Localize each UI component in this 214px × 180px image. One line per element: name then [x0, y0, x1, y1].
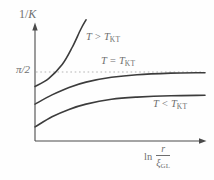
curve-label-t-above-tkt: T > TKT [86, 32, 120, 44]
curve-label-t-above-tkt-main: T > T [86, 31, 110, 42]
pi-half-tick-label: π/2 [6, 64, 30, 75]
y-axis-label: 1/K [19, 8, 36, 20]
curve-label-t-equal-tkt: T = TKT [101, 56, 135, 68]
y-axis-label-prefix: 1/ [19, 7, 28, 21]
curve-label-t-equal-tkt-main: T = T [101, 55, 125, 66]
x-axis-label-denominator: ξGL [156, 156, 170, 170]
x-axis-label: ln r ξGL [144, 143, 170, 170]
plot-canvas [0, 0, 214, 180]
xi-subscript: GL [160, 162, 170, 170]
curve-t-above-tkt [35, 20, 86, 87]
curve-label-t-equal-tkt-subscript: KT [125, 59, 136, 68]
y-axis-arrowhead-icon [32, 23, 37, 31]
x-axis-arrowhead-icon [199, 138, 207, 143]
curve-label-t-below-tkt-subscript: KT [177, 102, 188, 111]
curve-label-t-below-tkt-main: T < T [153, 98, 177, 109]
x-axis-label-ln: ln [144, 151, 152, 162]
curve-label-t-above-tkt-subscript: KT [110, 35, 121, 44]
curve-label-t-below-tkt: T < TKT [153, 99, 187, 111]
x-axis-label-numerator: r [156, 143, 170, 156]
x-axis-label-fraction: r ξGL [156, 143, 170, 170]
y-axis-label-symbol: K [28, 7, 36, 21]
kt-stiffness-figure: 1/K π/2 T > TKT T = TKT T < TKT ln r ξGL [0, 0, 214, 180]
